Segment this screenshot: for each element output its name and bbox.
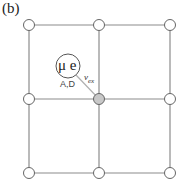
muon-electron-label: μ e bbox=[58, 57, 76, 74]
ex-subscript: ex bbox=[88, 77, 94, 85]
node bbox=[24, 168, 35, 179]
highlighted-node bbox=[94, 94, 105, 105]
node bbox=[94, 20, 105, 31]
node bbox=[24, 20, 35, 31]
node bbox=[165, 94, 176, 105]
node bbox=[165, 20, 176, 31]
panel-label: (b) bbox=[2, 0, 20, 17]
exchange-rate-label: νex bbox=[84, 72, 94, 85]
lattice-diagram bbox=[0, 0, 184, 187]
node bbox=[94, 168, 105, 179]
node bbox=[165, 168, 176, 179]
node bbox=[24, 94, 35, 105]
site-sublabel: A,D bbox=[60, 79, 75, 89]
